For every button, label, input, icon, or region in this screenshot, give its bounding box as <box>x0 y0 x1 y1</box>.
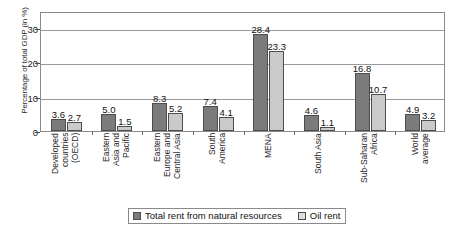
bar[interactable]: 10.7 <box>371 94 386 131</box>
bar-value-label: 3.6 <box>52 109 65 120</box>
bar[interactable]: 1.1 <box>320 127 335 131</box>
bar-value-label: 4.6 <box>305 105 318 116</box>
x-axis-label-line: countries <box>60 133 70 195</box>
bar-group: 28.423.3 <box>244 13 295 131</box>
bar-value-label: 10.7 <box>369 84 388 95</box>
x-axis-label: AmericaSouth <box>192 133 243 195</box>
legend-label: Total rent from natural resources <box>145 210 282 221</box>
x-axis-label-line: MENA <box>263 133 273 195</box>
x-axis-label-stack: PacificAsia andEastern <box>101 133 131 195</box>
bar[interactable]: 1.5 <box>117 126 132 131</box>
bar-pair: 16.810.7 <box>345 13 396 131</box>
x-axis-label-stack: South Asia <box>313 133 323 195</box>
x-axis-label-stack: AfricaSub-Saharan <box>359 133 379 195</box>
bar-value-label: 5.2 <box>169 103 182 114</box>
legend-item[interactable]: Oil rent <box>298 210 341 221</box>
bar-group: 5.01.5 <box>92 13 143 131</box>
chart-legend: Total rent from natural resourcesOil ren… <box>128 208 346 224</box>
bar-value-label: 1.5 <box>118 116 131 127</box>
bar-value-label: 4.1 <box>220 107 233 118</box>
y-tick-mark <box>35 29 40 30</box>
plot-area: 3.62.75.01.58.35.27.44.128.423.34.61.116… <box>40 12 445 132</box>
bar-pair: 4.61.1 <box>294 13 345 131</box>
x-axis-label-stack: Central AsiaEurope andEastern <box>152 133 182 195</box>
x-axis-label: (OECD)countriesDeveloped <box>40 133 91 195</box>
bar-value-label: 5.0 <box>102 104 115 115</box>
x-axis-label-line: (OECD) <box>70 133 80 195</box>
bar-value-label: 28.4 <box>252 24 271 35</box>
y-tick-mark <box>35 98 40 99</box>
x-axis-label: AfricaSub-Saharan <box>344 133 395 195</box>
bar-value-label: 4.9 <box>406 104 419 115</box>
x-axis-label-stack: averageWorld <box>410 133 430 195</box>
bar[interactable]: 8.3 <box>152 103 167 131</box>
bar[interactable]: 16.8 <box>355 73 370 131</box>
x-axis-label-stack: AmericaSouth <box>207 133 227 195</box>
legend-item[interactable]: Total rent from natural resources <box>133 210 282 221</box>
bar-group: 16.810.7 <box>345 13 396 131</box>
x-axis-label-line: America <box>217 133 227 195</box>
bar[interactable]: 3.6 <box>51 119 66 131</box>
x-axis-label-line: Eastern <box>101 133 111 195</box>
x-axis-label-line: Asia and <box>111 133 121 195</box>
legend-label: Oil rent <box>310 210 341 221</box>
x-axis-labels: (OECD)countriesDevelopedPacificAsia andE… <box>40 133 445 195</box>
bar-value-label: 1.1 <box>321 117 334 128</box>
bar-group: 7.44.1 <box>193 13 244 131</box>
bar-group: 3.62.7 <box>41 13 92 131</box>
y-tick-mark <box>35 63 40 64</box>
x-axis-label-stack: (OECD)countriesDeveloped <box>50 133 80 195</box>
x-axis-label-line: Eastern <box>152 133 162 195</box>
bar-pair: 4.93.2 <box>395 13 446 131</box>
x-axis-label-line: South <box>207 133 217 195</box>
bar[interactable]: 5.2 <box>168 113 183 131</box>
x-axis-label: South Asia <box>293 133 344 195</box>
bar[interactable]: 3.2 <box>421 120 436 131</box>
x-axis-label-line: Central Asia <box>172 133 182 195</box>
bar-group: 4.93.2 <box>395 13 446 131</box>
x-axis-label: averageWorld <box>394 133 445 195</box>
x-axis-label-line: South Asia <box>313 133 323 195</box>
x-axis-label-line: Developed <box>50 133 60 195</box>
x-axis-label-line: Sub-Saharan <box>359 133 369 195</box>
bar-value-label: 3.2 <box>422 110 435 121</box>
bar[interactable]: 4.6 <box>304 115 319 131</box>
bar-pair: 3.62.7 <box>41 13 92 131</box>
bar-group: 8.35.2 <box>142 13 193 131</box>
bar-chart: Percentage of total GDP (in %) 3.62.75.0… <box>0 0 451 230</box>
x-axis-label: Central AsiaEurope andEastern <box>141 133 192 195</box>
x-axis-label-line: Africa <box>369 133 379 195</box>
x-axis-label: MENA <box>243 133 294 195</box>
bar-value-label: 8.3 <box>153 93 166 104</box>
x-axis-label-stack: MENA <box>263 133 273 195</box>
x-axis-label: PacificAsia andEastern <box>91 133 142 195</box>
bar-value-label: 2.7 <box>68 112 81 123</box>
legend-swatch <box>133 212 141 220</box>
x-axis-label-line: Pacific <box>121 133 131 195</box>
bar[interactable]: 4.1 <box>219 117 234 131</box>
x-axis-label-line: World <box>410 133 420 195</box>
bar-value-label: 7.4 <box>204 96 217 107</box>
bar[interactable]: 23.3 <box>269 51 284 131</box>
bar-pair: 5.01.5 <box>92 13 143 131</box>
bar-group: 4.61.1 <box>294 13 345 131</box>
legend-swatch <box>298 212 306 220</box>
bar-value-label: 23.3 <box>268 41 287 52</box>
bar[interactable]: 7.4 <box>203 106 218 131</box>
bar[interactable]: 28.4 <box>253 34 268 131</box>
x-axis-label-line: average <box>420 133 430 195</box>
bar[interactable]: 5.0 <box>101 114 116 131</box>
bar-pair: 28.423.3 <box>244 13 295 131</box>
bar-pair: 8.35.2 <box>142 13 193 131</box>
x-axis-label-line: Europe and <box>162 133 172 195</box>
bar-value-label: 16.8 <box>353 63 372 74</box>
bar[interactable]: 4.9 <box>405 114 420 131</box>
bar-pair: 7.44.1 <box>193 13 244 131</box>
bars-layer: 3.62.75.01.58.35.27.44.128.423.34.61.116… <box>41 13 444 131</box>
bar[interactable]: 2.7 <box>67 122 82 131</box>
